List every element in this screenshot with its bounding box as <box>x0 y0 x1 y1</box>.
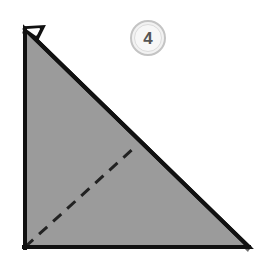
step-number-label: 4 <box>143 30 152 47</box>
step-number-badge-ring: 4 <box>134 24 162 52</box>
step-number-badge: 4 <box>130 20 166 56</box>
figure-root: 4 <box>0 0 269 260</box>
